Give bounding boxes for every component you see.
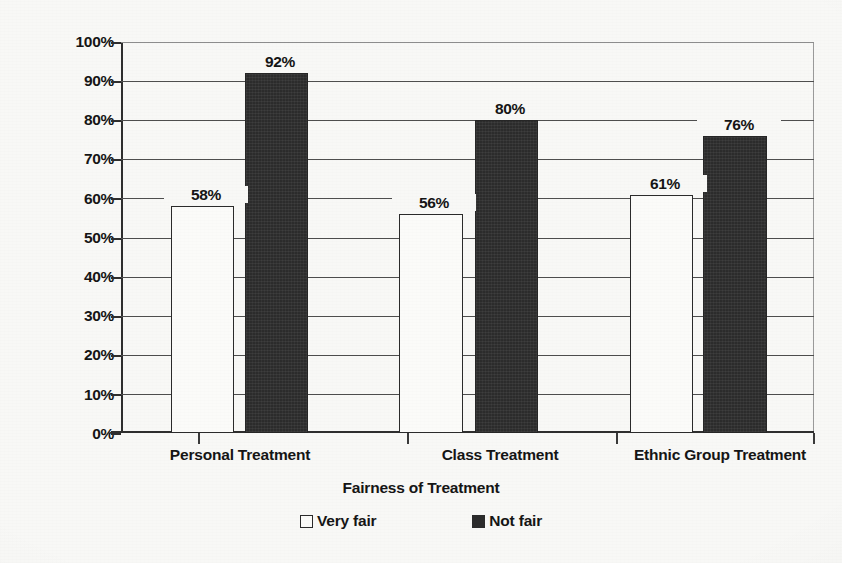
value-label-not-fair-class-treatment: 80%: [468, 100, 552, 117]
y-tick-mark-0: [111, 433, 121, 435]
category-label-ethnic-group-treatment: Ethnic Group Treatment: [605, 445, 835, 465]
value-label-not-fair-personal-treatment: 92%: [238, 53, 322, 70]
y-tick-label-20: 20%: [44, 347, 114, 363]
y-tick-mark-20: [111, 355, 121, 357]
y-tick-mark-10: [111, 394, 121, 396]
legend-entry-not-fair[interactable]: Not fair: [472, 512, 542, 530]
bar-very-fair-class-treatment[interactable]: [399, 214, 463, 433]
chart-legend: Very fair Not fair: [0, 512, 842, 530]
y-tick-label-30: 30%: [44, 308, 114, 324]
category-separator-start: [198, 433, 200, 444]
category-label-personal-treatment: Personal Treatment: [130, 445, 350, 465]
value-label-very-fair-personal-treatment: 58%: [164, 186, 248, 203]
y-tick-label-100: 100%: [44, 34, 114, 50]
category-separator-2: [616, 433, 618, 444]
bar-not-fair-personal-treatment[interactable]: [245, 73, 308, 433]
value-label-not-fair-ethnic-group-treatment: 76%: [697, 116, 781, 133]
bar-very-fair-ethnic-group-treatment[interactable]: [630, 195, 693, 434]
y-tick-label-40: 40%: [44, 269, 114, 285]
gridline-90: [121, 81, 814, 82]
bar-not-fair-ethnic-group-treatment[interactable]: [703, 136, 767, 433]
y-tick-mark-70: [111, 159, 121, 161]
value-label-very-fair-ethnic-group-treatment: 61%: [623, 175, 707, 192]
legend-label-not-fair: Not fair: [489, 512, 542, 530]
y-tick-label-0: 0%: [44, 426, 114, 442]
y-tick-label-80: 80%: [44, 112, 114, 128]
y-tick-label-70: 70%: [44, 151, 114, 167]
bar-not-fair-class-treatment[interactable]: [475, 120, 538, 433]
y-tick-mark-90: [111, 81, 121, 83]
y-tick-label-60: 60%: [44, 191, 114, 207]
gridline-100: [121, 42, 814, 43]
y-tick-mark-80: [111, 120, 121, 122]
legend-entry-very-fair[interactable]: Very fair: [300, 512, 376, 530]
y-tick-label-10: 10%: [44, 387, 114, 403]
x-axis-title: Fairness of Treatment: [0, 478, 842, 498]
y-tick-mark-30: [111, 316, 121, 318]
bar-very-fair-personal-treatment[interactable]: [171, 206, 234, 433]
legend-swatch-very-fair-icon: [300, 515, 313, 528]
legend-swatch-not-fair-icon: [472, 515, 485, 528]
y-tick-mark-60: [111, 198, 121, 200]
y-tick-label-50: 50%: [44, 230, 114, 246]
category-label-class-treatment: Class Treatment: [400, 445, 600, 465]
chart-page: Percentage Perceiving Decline in Fairnes…: [0, 0, 842, 563]
legend-label-very-fair: Very fair: [317, 512, 376, 530]
category-separator-1: [407, 433, 409, 444]
y-tick-label-90: 90%: [44, 73, 114, 89]
y-tick-mark-100: [111, 42, 121, 44]
y-tick-mark-40: [111, 277, 121, 279]
y-tick-mark-50: [111, 238, 121, 240]
value-label-very-fair-class-treatment: 56%: [392, 194, 476, 211]
plot-area: 58% 92% 56% 80% 61% 76%: [121, 42, 814, 433]
category-separator-end: [813, 433, 815, 444]
